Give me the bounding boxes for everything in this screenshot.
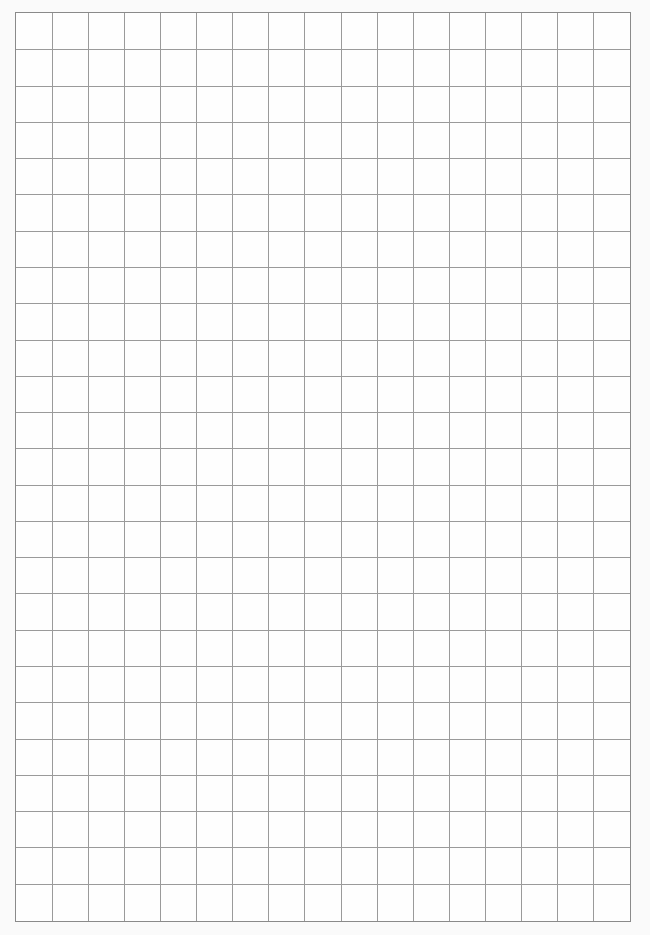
grid-vertical-line (232, 13, 233, 921)
grid-vertical-line (377, 13, 378, 921)
grid-vertical-line (449, 13, 450, 921)
grid-horizontal-line (16, 49, 630, 50)
grid-horizontal-line (16, 376, 630, 377)
grid-vertical-line (593, 13, 594, 921)
grid-horizontal-line (16, 231, 630, 232)
grid-horizontal-line (16, 702, 630, 703)
grid-horizontal-line (16, 340, 630, 341)
grid-horizontal-line (16, 884, 630, 885)
grid-horizontal-line (16, 593, 630, 594)
grid-horizontal-line (16, 267, 630, 268)
grid-horizontal-line (16, 775, 630, 776)
grid-horizontal-line (16, 158, 630, 159)
grid-vertical-line (341, 13, 342, 921)
grid-horizontal-line (16, 557, 630, 558)
grid-vertical-line (160, 13, 161, 921)
grid-vertical-line (124, 13, 125, 921)
grid-vertical-line (304, 13, 305, 921)
grid-horizontal-line (16, 847, 630, 848)
grid-horizontal-line (16, 303, 630, 304)
grid-horizontal-line (16, 811, 630, 812)
grid-horizontal-line (16, 194, 630, 195)
grid-vertical-line (196, 13, 197, 921)
grid-vertical-line (485, 13, 486, 921)
grid (15, 12, 631, 922)
grid-horizontal-line (16, 412, 630, 413)
grid-horizontal-line (16, 521, 630, 522)
grid-paper-page (0, 0, 650, 935)
grid-horizontal-line (16, 122, 630, 123)
grid-horizontal-line (16, 485, 630, 486)
grid-vertical-line (413, 13, 414, 921)
grid-horizontal-line (16, 448, 630, 449)
grid-vertical-line (268, 13, 269, 921)
grid-horizontal-line (16, 86, 630, 87)
grid-horizontal-line (16, 630, 630, 631)
grid-vertical-line (88, 13, 89, 921)
grid-horizontal-line (16, 739, 630, 740)
grid-vertical-line (521, 13, 522, 921)
grid-horizontal-line (16, 666, 630, 667)
grid-vertical-line (557, 13, 558, 921)
grid-vertical-line (52, 13, 53, 921)
